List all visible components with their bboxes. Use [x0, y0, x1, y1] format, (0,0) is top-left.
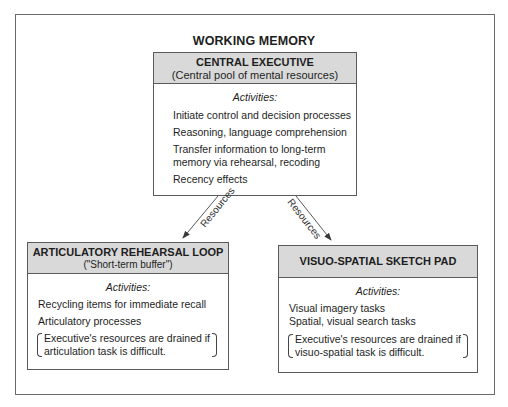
activity-item: Visual imagery tasks — [289, 302, 477, 315]
articulatory-loop-header: ARTICULATORY REHEARSAL LOOP ("Short-term… — [28, 243, 228, 274]
note-line: Executive's resources are drained if — [44, 332, 210, 345]
sketch-pad-box: VISUO-SPATIAL SKETCH PAD Activities: Vis… — [278, 245, 478, 373]
diagram-title: WORKING MEMORY — [0, 34, 508, 48]
central-executive-subtitle: (Central pool of mental resources) — [154, 69, 356, 82]
articulatory-loop-activities: Recycling items for immediate recall Art… — [28, 298, 228, 328]
activities-label: Activities: — [28, 281, 228, 293]
activity-item: Spatial, visual search tasks — [289, 315, 477, 328]
activity-item: Articulatory processes — [38, 315, 228, 328]
activities-label: Activities: — [154, 91, 356, 103]
activity-item: Reasoning, language comprehension — [173, 126, 356, 139]
activity-item: Transfer information to long-term — [173, 143, 356, 156]
sketch-pad-header: VISUO-SPATIAL SKETCH PAD — [279, 246, 477, 278]
note-line: visuo-spatial task is difficult. — [295, 346, 461, 359]
articulatory-loop-title: ARTICULATORY REHEARSAL LOOP — [28, 246, 228, 259]
central-executive-box: CENTRAL EXECUTIVE (Central pool of menta… — [153, 52, 357, 196]
sketch-pad-note: Executive's resources are drained if vis… — [288, 333, 468, 359]
activity-item: Recycling items for immediate recall — [38, 298, 228, 311]
activities-label: Activities: — [279, 285, 477, 297]
sketch-pad-activities: Visual imagery tasks Spatial, visual sea… — [279, 302, 477, 328]
central-executive-activities: Initiate control and decision processes … — [154, 109, 356, 186]
note-line: Executive's resources are drained if — [295, 333, 461, 346]
activity-item: Initiate control and decision processes — [173, 109, 356, 122]
central-executive-title: CENTRAL EXECUTIVE — [154, 56, 356, 69]
activity-item: memory via rehearsal, recoding — [173, 156, 356, 169]
sketch-pad-title: VISUO-SPATIAL SKETCH PAD — [279, 255, 477, 268]
articulatory-loop-note: Executive's resources are drained if art… — [37, 332, 217, 358]
activity-item: Recency effects — [173, 173, 356, 186]
articulatory-loop-box: ARTICULATORY REHEARSAL LOOP ("Short-term… — [27, 242, 229, 370]
note-line: articulation task is difficult. — [44, 345, 210, 358]
central-executive-header: CENTRAL EXECUTIVE (Central pool of menta… — [154, 53, 356, 84]
articulatory-loop-subtitle: ("Short-term buffer") — [28, 259, 228, 271]
